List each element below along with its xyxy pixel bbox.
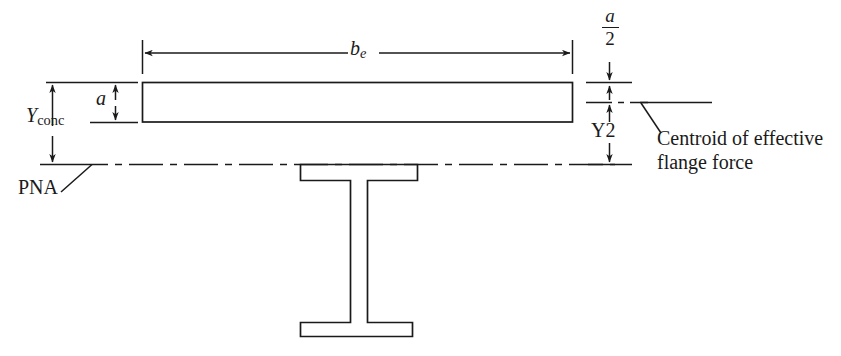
effective-width-label: be: [350, 38, 366, 61]
fraction-denominator: 2: [597, 29, 623, 49]
concrete-depth-label: Yconc: [26, 105, 64, 128]
fraction-numerator: a: [597, 6, 623, 26]
half-slab-depth-fraction: a 2: [597, 6, 623, 49]
centroid-note-line-1: Centroid of effective: [657, 126, 823, 150]
slab-depth-label: a: [96, 88, 106, 108]
be-symbol: b: [350, 37, 360, 59]
centroid-note-line-2: flange force: [657, 150, 823, 174]
steel-i-beam-outline: [301, 165, 418, 337]
concrete-slab-outline: [143, 83, 573, 123]
centroid-note-label: Centroid of effective flange force: [657, 126, 823, 175]
pna-label: PNA: [18, 177, 58, 197]
yconc-symbol: Y: [26, 104, 37, 126]
y2-label: Y2: [591, 120, 615, 140]
pna-leader-line: [61, 165, 92, 193]
composite-beam-diagram: be a Yconc a 2 Y2 PNA Centroid of effect…: [0, 0, 841, 356]
be-subscript: e: [360, 45, 366, 61]
yconc-subscript: conc: [37, 112, 64, 128]
diagram-canvas: [0, 0, 841, 356]
